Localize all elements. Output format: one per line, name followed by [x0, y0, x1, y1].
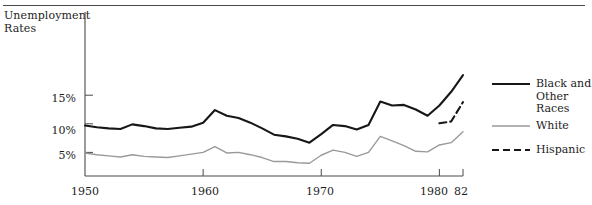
- legend-swatch-dashed: [492, 143, 530, 157]
- legend-label-white: White: [536, 120, 592, 133]
- legend-swatch-solid-thin: [492, 119, 530, 133]
- legend-label-hispanic: Hispanic: [536, 144, 592, 157]
- legend-item-black-and-other-races: Black and Other Races: [492, 78, 588, 118]
- legend-swatch-solid-thick: [492, 77, 530, 91]
- legend-item-white: White: [492, 120, 588, 142]
- x-axis-ticks: [203, 169, 463, 176]
- data-series-layer: [85, 75, 463, 163]
- chart-legend: Black and Other Races White Hispanic: [492, 78, 588, 168]
- series-line-white: [85, 132, 463, 163]
- series-line-hispanic: [439, 102, 463, 123]
- y-axis-ticks: [85, 95, 93, 152]
- legend-label-black-and-other-races: Black and Other Races: [536, 78, 592, 116]
- legend-item-hispanic: Hispanic: [492, 144, 588, 166]
- series-line-black-and-other-races: [85, 75, 463, 142]
- axes: [85, 12, 463, 176]
